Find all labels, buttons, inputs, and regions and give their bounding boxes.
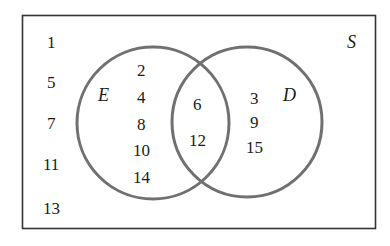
set-e-element: 8 [137, 115, 146, 134]
outside-element: 11 [43, 155, 59, 174]
set-e-element: 4 [137, 88, 146, 107]
outside-element: 7 [47, 114, 56, 133]
set-e-element: 14 [133, 168, 151, 187]
outside-element: 5 [47, 73, 56, 92]
outside-element: 1 [47, 33, 56, 52]
set-d-element: 15 [246, 138, 263, 157]
intersection-element: 12 [189, 131, 206, 150]
venn-diagram: S E D 1 5 7 11 13 2 4 8 10 14 6 12 3 9 1… [0, 0, 390, 246]
set-d-element: 9 [250, 113, 259, 132]
set-d-circle [172, 47, 322, 197]
set-d-element: 3 [250, 89, 259, 108]
universal-set-label: S [347, 32, 356, 52]
set-e-label: E [97, 85, 109, 105]
set-d-label: D [282, 85, 296, 105]
set-e-element: 2 [137, 61, 146, 80]
set-e-element: 10 [133, 141, 150, 160]
set-e-circle [77, 47, 229, 199]
intersection-element: 6 [193, 95, 202, 114]
outside-element: 13 [43, 199, 60, 218]
